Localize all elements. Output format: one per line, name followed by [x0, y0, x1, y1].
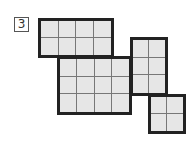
grid-cell: [112, 94, 129, 112]
grid-cell: [95, 59, 112, 77]
grid-cell: [133, 58, 149, 76]
center-rect: [57, 56, 132, 115]
grid-cell: [76, 21, 94, 38]
grid-cell: [60, 94, 77, 112]
grid-cell: [151, 114, 167, 131]
grid-cell: [151, 97, 167, 114]
grid-cell: [94, 21, 112, 38]
grid-cell: [133, 75, 149, 93]
top-left-rect: [38, 18, 114, 58]
grid-cell: [60, 77, 77, 95]
grid-cell: [41, 21, 59, 38]
grid-cell: [149, 58, 165, 76]
grid-cell: [77, 77, 94, 95]
grid-cell: [167, 114, 183, 131]
grid-cell: [112, 59, 129, 77]
grid-cell: [95, 77, 112, 95]
grid-cell: [133, 40, 149, 58]
grid-cell: [59, 21, 77, 38]
grid-cell: [77, 59, 94, 77]
grid-cell: [59, 38, 77, 55]
problem-number-label: 3: [14, 17, 29, 32]
grid-cell: [95, 94, 112, 112]
grid-cell: [149, 40, 165, 58]
grid-cell: [167, 97, 183, 114]
grid-cell: [94, 38, 112, 55]
grid-cell: [77, 94, 94, 112]
grid-cell: [149, 75, 165, 93]
right-rect: [130, 37, 168, 96]
bottom-right-rect: [148, 94, 186, 134]
grid-cell: [76, 38, 94, 55]
grid-cell: [41, 38, 59, 55]
grid-cell: [112, 77, 129, 95]
grid-cell: [60, 59, 77, 77]
